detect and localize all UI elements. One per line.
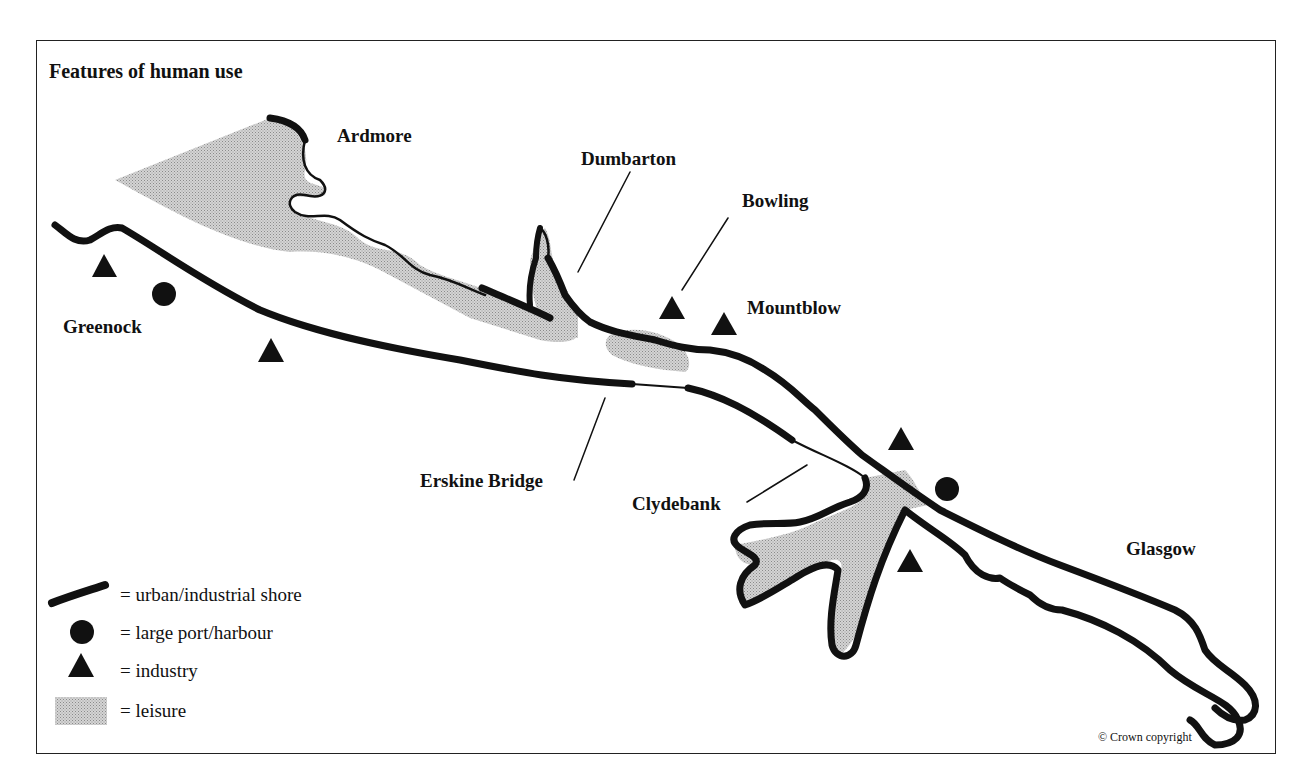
port-greenock-icon [152, 282, 176, 306]
industry-bowling-icon [659, 296, 685, 319]
legend-label: = urban/industrial shore [120, 584, 302, 606]
map-title: Features of human use [49, 60, 243, 83]
copyright-notice: © Crown copyright [1098, 730, 1192, 745]
legend-port-slot [50, 620, 120, 646]
industry-clydebank-north-icon [888, 427, 914, 450]
place-label-glasgow: Glasgow [1126, 538, 1196, 560]
leisure-area-ardmore [115, 118, 578, 342]
port-glasgow-icon [935, 477, 959, 501]
leader-clydebank [747, 465, 807, 502]
place-label-ardmore: Ardmore [337, 125, 412, 147]
place-label-greenock: Greenock [63, 316, 142, 338]
legend-item-industry: = industry [50, 658, 198, 684]
south-shore-clydebank [734, 478, 1240, 745]
place-label-dumbarton: Dumbarton [581, 148, 676, 170]
leader-erskine [574, 398, 605, 480]
legend-label: = leisure [120, 700, 186, 722]
legend-item-leisure: = leisure [50, 698, 186, 724]
place-label-erskine-bridge: Erskine Bridge [420, 470, 543, 492]
industry-mountblow-icon [711, 312, 737, 335]
place-label-clydebank: Clydebank [632, 493, 721, 515]
legend-label: = large port/harbour [120, 622, 273, 644]
leader-dumbarton [578, 172, 630, 272]
legend-item-urban-shore: = urban/industrial shore [50, 582, 302, 608]
place-label-bowling: Bowling [742, 190, 809, 212]
legend-item-port: = large port/harbour [50, 620, 273, 646]
industry-greenock-west-icon [92, 254, 117, 277]
south-shore-erskine-gap [632, 384, 688, 388]
legend-urban-shore-slot [50, 582, 120, 608]
south-shore-erskine [688, 388, 792, 440]
industry-clydebank-south-icon [897, 549, 923, 572]
place-label-mountblow: Mountblow [747, 297, 841, 319]
legend-industry-slot [50, 658, 120, 684]
industry-greenock-east-icon [258, 338, 284, 362]
leader-bowling [682, 218, 728, 290]
legend-label: = industry [120, 660, 198, 682]
legend-leisure-slot [50, 698, 120, 724]
